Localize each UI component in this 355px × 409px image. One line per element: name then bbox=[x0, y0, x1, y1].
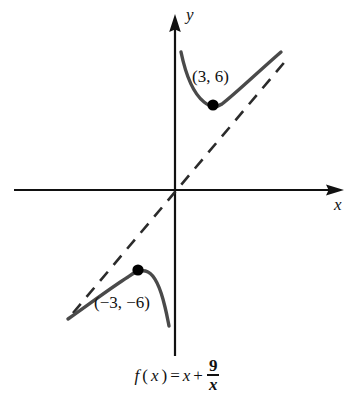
point-label-local-maximum: (−3, −6) bbox=[94, 294, 150, 311]
point-marker-local-maximum bbox=[132, 264, 143, 275]
graph-canvas bbox=[0, 0, 355, 409]
y-axis bbox=[169, 14, 181, 356]
caption-function-name: f bbox=[135, 366, 140, 386]
point-marker-local-minimum bbox=[207, 99, 218, 110]
caption-equals-sign: = bbox=[170, 366, 180, 386]
caption-fraction-numerator: 9 bbox=[207, 357, 220, 374]
caption-fraction: 9 x bbox=[207, 357, 220, 393]
caption-plus-sign: + bbox=[193, 366, 203, 386]
x-axis bbox=[14, 184, 344, 195]
y-axis-arrowhead-icon bbox=[169, 14, 181, 32]
function-graph-figure: y x (3, 6) (−3, −6) f(x) = x + 9 x bbox=[0, 0, 355, 409]
point-label-local-minimum: (3, 6) bbox=[192, 68, 229, 85]
caption-fraction-denominator: x bbox=[207, 376, 220, 393]
function-caption: f(x) = x + 9 x bbox=[0, 358, 355, 394]
caption-variable: x bbox=[151, 366, 159, 386]
x-axis-label: x bbox=[334, 196, 342, 213]
caption-close-paren: ) bbox=[162, 366, 168, 386]
asymptote-dashed-line bbox=[73, 58, 288, 313]
y-axis-label: y bbox=[186, 6, 194, 23]
caption-open-paren: ( bbox=[142, 366, 148, 386]
caption-term-x: x bbox=[183, 366, 191, 386]
x-axis-arrowhead-icon bbox=[326, 184, 344, 195]
